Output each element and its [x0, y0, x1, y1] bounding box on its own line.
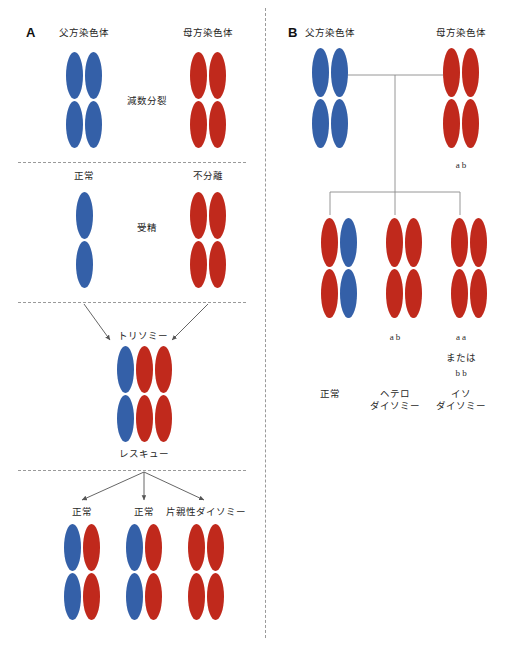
panel-b-outcome3-alleles-alt: b b — [455, 368, 466, 378]
chromosome-b-outcome1-a — [321, 218, 338, 318]
panel-b-outcome2-alleles: a b — [390, 332, 401, 342]
panel-b-outcome3-alleles: a a — [456, 332, 466, 342]
panel-b-outcome3-alleles-separator: または — [446, 350, 476, 364]
chromatid-arm — [386, 269, 403, 318]
chromatid-arm — [470, 218, 487, 267]
panel-b-outcome-label-2-line2: ダイソミー — [370, 400, 420, 411]
chromatid-arm — [321, 269, 338, 318]
chromatid-arm — [470, 269, 487, 318]
chromosome-b-outcome3-b — [470, 218, 487, 318]
chromosome-b-outcome3-a — [451, 218, 468, 318]
chromosome-b-outcome2-a — [386, 218, 403, 318]
panel-b-connectors — [0, 0, 508, 645]
chromosome-b-outcome1-b — [340, 218, 357, 318]
chromatid-arm — [405, 218, 422, 267]
panel-b-outcome-label-1: 正常 — [320, 388, 340, 400]
chromatid-arm — [340, 218, 357, 267]
chromosome-b-outcome2-b — [405, 218, 422, 318]
panel-b-outcome-label-2: ヘテロ ダイソミー — [370, 388, 420, 412]
chromatid-arm — [340, 269, 357, 318]
panel-b-outcome-label-3: イソ ダイソミー — [436, 388, 486, 412]
chromatid-arm — [386, 218, 403, 267]
panel-b-outcome-label-3-line2: ダイソミー — [436, 400, 486, 411]
chromatid-arm — [451, 269, 468, 318]
chromatid-arm — [451, 218, 468, 267]
panel-b-outcome-label-3-line1: イソ — [451, 388, 471, 399]
panel-b-outcome-label-2-line1: ヘテロ — [380, 388, 410, 399]
chromatid-arm — [405, 269, 422, 318]
chromatid-arm — [321, 218, 338, 267]
